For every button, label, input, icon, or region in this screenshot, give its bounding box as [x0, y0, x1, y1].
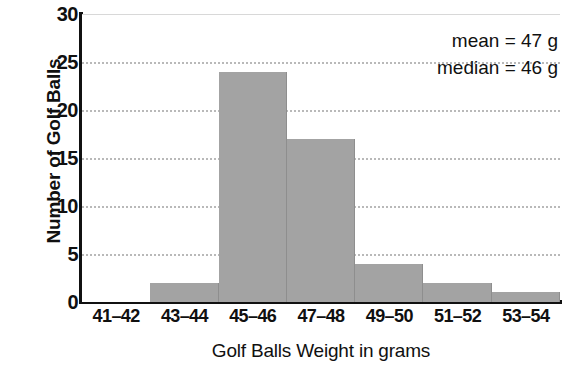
bar[interactable] [287, 139, 355, 302]
x-tick-label: 47–48 [287, 306, 355, 327]
y-axis-tick-labels: 051015202530 [28, 0, 78, 375]
statistics-annotations: mean = 47 g median = 46 g [437, 28, 558, 82]
x-tick-label: 53–54 [492, 306, 560, 327]
y-tick-label: 15 [28, 147, 78, 170]
bar-slot [287, 14, 355, 302]
y-tick-label: 30 [28, 3, 78, 26]
histogram-chart: Number of Golf Balls 051015202530 41–424… [0, 0, 576, 375]
bar[interactable] [423, 283, 491, 302]
annotation-mean: mean = 47 g [437, 28, 558, 55]
bar-slot [150, 14, 218, 302]
x-axis-title: Golf Balls Weight in grams [82, 340, 560, 362]
y-tick-label: 25 [28, 51, 78, 74]
bar-slot [355, 14, 423, 302]
bar[interactable] [219, 72, 287, 302]
bar-slot [219, 14, 287, 302]
x-tick-label: 43–44 [150, 306, 218, 327]
bar[interactable] [492, 292, 560, 302]
y-tick-label: 10 [28, 195, 78, 218]
annotation-median: median = 46 g [437, 55, 558, 82]
x-tick-label: 45–46 [219, 306, 287, 327]
bar[interactable] [150, 283, 218, 302]
y-tick-label: 0 [28, 291, 78, 314]
x-tick-label: 49–50 [355, 306, 423, 327]
y-tick-label: 5 [28, 243, 78, 266]
bar[interactable] [355, 264, 423, 302]
bar-slot [82, 14, 150, 302]
y-tick-label: 20 [28, 99, 78, 122]
x-tick-label: 51–52 [423, 306, 491, 327]
x-axis-tick-labels: 41–4243–4445–4647–4849–5051–5253–54 [82, 306, 560, 327]
x-tick-label: 41–42 [82, 306, 150, 327]
